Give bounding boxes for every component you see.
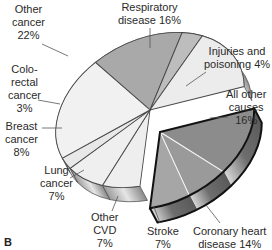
label-line: Other	[12, 3, 45, 16]
label-line: Other	[91, 211, 119, 224]
label-all-other-causes: All other causes 16%	[226, 88, 266, 127]
label-coronary: Coronary heart disease 14%	[193, 225, 266, 250]
label-line: rectal	[8, 76, 41, 89]
label-line: 7%	[40, 190, 73, 203]
label-stroke: Stroke 7%	[147, 225, 179, 250]
label-line: Breast	[5, 120, 38, 133]
label-line: Respiratory	[118, 1, 181, 14]
label-line: cancer	[12, 16, 45, 29]
label-line: Injuries and	[204, 45, 270, 58]
label-line: Lung	[40, 164, 73, 177]
label-line: CVD	[91, 224, 119, 237]
label-line: 7%	[147, 238, 179, 250]
label-line: disease 14%	[193, 238, 266, 250]
label-line: 3%	[8, 102, 41, 115]
label-line: 22%	[12, 29, 45, 42]
label-line: disease 16%	[118, 14, 181, 27]
label-other-cvd: Other CVD 7%	[91, 211, 119, 250]
panel-label: B	[4, 236, 12, 248]
label-line: Coronary heart	[193, 225, 266, 238]
label-line: causes	[226, 101, 266, 114]
label-lung-cancer: Lung cancer 7%	[40, 164, 73, 203]
label-colorectal-cancer: Colo- rectal cancer 3%	[8, 63, 41, 115]
label-respiratory: Respiratory disease 16%	[118, 1, 181, 27]
label-line: cancer	[5, 133, 38, 146]
label-line: 16%	[226, 114, 266, 127]
label-other-cancer: Other cancer 22%	[12, 3, 45, 42]
label-breast-cancer: Breast cancer 8%	[5, 120, 38, 159]
label-line: Colo-	[8, 63, 41, 76]
label-line: 8%	[5, 146, 38, 159]
label-injuries: Injuries and poisoning 4%	[204, 45, 270, 71]
label-line: cancer	[40, 177, 73, 190]
label-line: cancer	[8, 89, 41, 102]
label-line: All other	[226, 88, 266, 101]
label-line: poisoning 4%	[204, 58, 270, 71]
label-line: Stroke	[147, 225, 179, 238]
label-line: 7%	[91, 237, 119, 250]
